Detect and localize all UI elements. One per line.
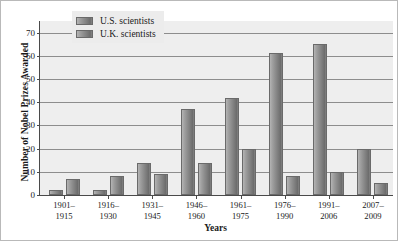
x-tick-label: 1901–1915 (41, 200, 87, 221)
bar-us-1 (93, 190, 107, 195)
x-tick-label-line: 1961– (218, 200, 264, 211)
x-tick-mark (108, 196, 109, 199)
x-tick-label: 1916–1930 (85, 200, 131, 221)
bar-uk-0 (66, 179, 80, 195)
bar-group: 1961–1975 (225, 21, 256, 195)
y-tick-mark (37, 149, 40, 150)
y-tick-label: 0 (31, 190, 36, 200)
legend-swatch-uk-icon (76, 30, 93, 38)
bar-uk-1 (110, 176, 124, 195)
x-tick-label-line: 1976– (262, 200, 308, 211)
bar-group: 1901–1915 (49, 21, 80, 195)
bar-group: 1976–1990 (269, 21, 300, 195)
y-tick-label: 10 (26, 167, 35, 177)
x-tick-label-line: 2007– (350, 200, 396, 211)
x-tick-label-line: 1946– (173, 200, 219, 211)
bar-group: 2007–2009 (357, 21, 388, 195)
chart-figure: Number of Nobel Prizes Awarded 010203040… (0, 0, 398, 241)
bar-us-0 (49, 190, 63, 195)
legend-item-uk: U.K. scientists (76, 27, 156, 40)
bar-uk-4 (242, 149, 256, 195)
y-tick-mark (37, 195, 40, 196)
y-tick-label: 60 (26, 51, 35, 61)
bar-us-3 (181, 109, 195, 195)
legend-label-uk: U.K. scientists (100, 29, 156, 39)
x-tick-label: 2007–2009 (350, 200, 396, 221)
legend-swatch-us-icon (76, 17, 93, 25)
bar-us-5 (269, 53, 283, 195)
y-tick-label: 50 (26, 74, 35, 84)
chart-legend: U.S. scientists U.K. scientists (72, 11, 164, 43)
x-tick-label-line: 2009 (350, 211, 396, 222)
bar-us-2 (137, 163, 151, 195)
bar-group: 1916–1930 (93, 21, 124, 195)
x-tick-label: 1946–1960 (173, 200, 219, 221)
y-tick-label: 20 (26, 144, 35, 154)
x-axis-title: Years (39, 223, 392, 233)
y-tick-label: 30 (26, 120, 35, 130)
x-tick-label: 1976–1990 (262, 200, 308, 221)
x-tick-label-line: 1901– (41, 200, 87, 211)
plot-area: 0102030405060701901–19151916–19301931–19… (39, 21, 393, 196)
y-tick-mark (37, 56, 40, 57)
x-tick-label-line: 1931– (129, 200, 175, 211)
x-tick-label-line: 1915 (41, 211, 87, 222)
x-tick-label-line: 1916– (85, 200, 131, 211)
x-tick-mark (64, 196, 65, 199)
x-tick-label-line: 1990 (262, 211, 308, 222)
bar-group: 1991–2006 (313, 21, 344, 195)
legend-item-us: U.S. scientists (76, 14, 156, 27)
bar-uk-7 (374, 183, 388, 195)
legend-label-us: U.S. scientists (100, 16, 154, 26)
y-tick-mark (37, 172, 40, 173)
x-tick-label: 1961–1975 (218, 200, 264, 221)
y-tick-mark (37, 79, 40, 80)
x-tick-label: 1991–2006 (306, 200, 352, 221)
x-tick-mark (285, 196, 286, 199)
bar-us-7 (357, 149, 371, 195)
x-tick-label-line: 1960 (173, 211, 219, 222)
plot-inner: 0102030405060701901–19151916–19301931–19… (40, 21, 393, 195)
x-tick-mark (196, 196, 197, 199)
bar-us-6 (313, 44, 327, 195)
x-tick-label: 1931–1945 (129, 200, 175, 221)
bar-group: 1931–1945 (137, 21, 168, 195)
bar-uk-6 (330, 172, 344, 195)
x-tick-mark (152, 196, 153, 199)
x-tick-label-line: 2006 (306, 211, 352, 222)
x-tick-mark (329, 196, 330, 199)
bar-uk-2 (154, 174, 168, 195)
x-tick-mark (241, 196, 242, 199)
x-tick-mark (373, 196, 374, 199)
y-tick-label: 70 (26, 28, 35, 38)
bar-uk-5 (286, 176, 300, 195)
y-tick-mark (37, 125, 40, 126)
x-tick-label-line: 1975 (218, 211, 264, 222)
x-tick-label-line: 1991– (306, 200, 352, 211)
y-tick-mark (37, 102, 40, 103)
y-tick-mark (37, 33, 40, 34)
x-tick-label-line: 1945 (129, 211, 175, 222)
bar-group: 1946–1960 (181, 21, 212, 195)
bar-uk-3 (198, 163, 212, 195)
y-tick-label: 40 (26, 97, 35, 107)
bar-us-4 (225, 98, 239, 195)
x-tick-label-line: 1930 (85, 211, 131, 222)
